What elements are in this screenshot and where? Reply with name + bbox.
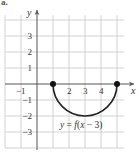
equation-label: y = f(x − 3) [59,120,102,131]
x-axis-label: x [130,85,136,96]
svg-text:−3: −3 [22,127,32,137]
svg-text:3: 3 [83,86,88,96]
svg-text:1: 1 [28,63,33,73]
svg-text:3: 3 [28,31,33,41]
svg-text:2: 2 [28,47,33,57]
coordinate-plane: −1234321−1−2−3 x y y = f(x − 3) [0,0,140,152]
svg-text:−2: −2 [22,111,32,121]
graph-figure: a. −1234321−1−2−3 x y y = f(x − 3) [0,0,140,152]
svg-text:−1: −1 [22,95,32,105]
y-axis-label: y [26,7,32,18]
panel-label: a. [1,0,8,7]
svg-text:4: 4 [99,86,104,96]
svg-text:2: 2 [67,86,72,96]
